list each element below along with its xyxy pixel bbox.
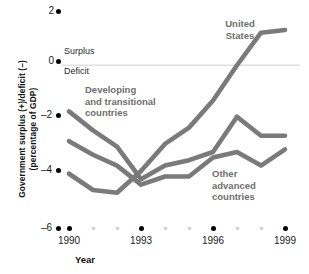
y-tick-label-neg4: –4 xyxy=(36,164,52,175)
x-tick-dot-1991 xyxy=(92,227,95,230)
series-label-united-states: United States xyxy=(211,18,269,41)
x-tick-dot-1999 xyxy=(283,226,288,231)
y-tick-dot-2 xyxy=(56,9,61,14)
chart-root: Government surplus (+)/deficit (–) (perc… xyxy=(0,0,309,274)
y-tick-label-0: 0 xyxy=(38,55,54,66)
y-tick-label-neg2: –2 xyxy=(36,109,52,120)
x-tick-dot-1994 xyxy=(164,227,167,230)
y-tick-label-2: 2 xyxy=(38,5,54,16)
y-tick-dot-neg2 xyxy=(56,113,61,118)
x-tick-label-1990: 1990 xyxy=(49,235,89,246)
y-tick-label-neg6: –6 xyxy=(36,222,52,233)
surplus-annotation: Surplus xyxy=(64,46,95,56)
x-tick-label-1999: 1999 xyxy=(265,235,305,246)
x-tick-dot-1997 xyxy=(236,227,239,230)
deficit-annotation: Deficit xyxy=(64,66,89,76)
y-axis-title: Government surplus (+)/deficit (–) (perc… xyxy=(17,34,39,224)
x-tick-dot-1993 xyxy=(139,226,144,231)
x-axis-title: Year xyxy=(60,254,110,265)
x-tick-dot-1995 xyxy=(188,227,191,230)
x-tick-dot-1998 xyxy=(260,227,263,230)
series-label-other-advanced: Other advanced countries xyxy=(212,168,282,203)
x-tick-dot-1992 xyxy=(116,227,119,230)
x-tick-dot-1990 xyxy=(67,226,72,231)
y-tick-dot-0 xyxy=(56,59,61,64)
x-tick-dot-1996 xyxy=(211,226,216,231)
y-tick-dot-neg4 xyxy=(56,168,61,173)
series-label-developing-transitional: Developing and transitional countries xyxy=(85,84,193,119)
y-tick-dot-neg6 xyxy=(56,226,61,231)
x-tick-label-1993: 1993 xyxy=(121,235,161,246)
x-tick-label-1996: 1996 xyxy=(193,235,233,246)
